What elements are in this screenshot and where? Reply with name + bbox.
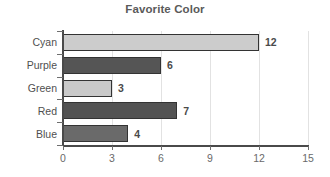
value-label-cyan: 12 (265, 36, 277, 48)
x-axis-tick-9 (210, 146, 211, 150)
x-axis-tick-15 (308, 146, 309, 150)
value-label-blue: 4 (134, 128, 140, 140)
x-axis-label-6: 6 (146, 152, 176, 164)
bar-chart: Favorite Color Cyan12Purple6Green3Red7Bl… (0, 0, 330, 177)
category-label-red: Red (38, 105, 57, 117)
value-label-green: 3 (118, 82, 124, 94)
category-label-purple: Purple (27, 59, 57, 71)
x-axis-line (63, 145, 309, 147)
category-label-green: Green (28, 82, 57, 94)
value-label-red: 7 (183, 105, 189, 117)
x-axis-label-0: 0 (48, 152, 78, 164)
x-axis-tick-12 (259, 146, 260, 150)
value-label-purple: 6 (167, 59, 173, 71)
gridline-12 (259, 31, 260, 145)
x-axis-tick-3 (112, 146, 113, 150)
y-axis-line (62, 30, 64, 146)
bar-purple[interactable] (63, 57, 161, 74)
y-axis-tick (57, 77, 63, 78)
category-label-cyan: Cyan (32, 36, 57, 48)
bar-blue[interactable] (63, 125, 128, 142)
chart-title: Favorite Color (0, 3, 330, 15)
category-label-blue: Blue (36, 128, 57, 140)
x-axis-tick-6 (161, 146, 162, 150)
x-axis-tick-0 (63, 146, 64, 150)
y-axis-tick (57, 99, 63, 100)
y-axis-tick (57, 54, 63, 55)
bar-green[interactable] (63, 80, 112, 97)
x-axis-label-3: 3 (97, 152, 127, 164)
x-axis-label-9: 9 (195, 152, 225, 164)
bar-cyan[interactable] (63, 34, 259, 51)
y-axis-tick (57, 31, 63, 32)
y-axis-tick (57, 122, 63, 123)
x-axis-label-12: 12 (244, 152, 274, 164)
bar-red[interactable] (63, 102, 177, 119)
x-axis-label-15: 15 (293, 152, 323, 164)
gridline-15 (308, 31, 309, 145)
